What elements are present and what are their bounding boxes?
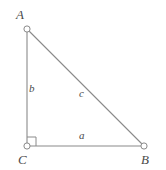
triangle-drawing [0,0,166,170]
side-c-line [27,29,144,146]
vertex-label-c: C [18,153,27,166]
vertex-label-b: B [141,153,149,166]
vertex-marker-a [24,26,30,32]
vertex-label-a: A [16,8,24,21]
vertex-marker-c [24,143,30,149]
side-label-b: b [29,83,35,94]
triangle-diagram: A B C a b c [0,0,166,170]
vertex-marker-b [141,143,147,149]
side-label-c: c [79,88,84,99]
side-label-a: a [79,130,85,141]
